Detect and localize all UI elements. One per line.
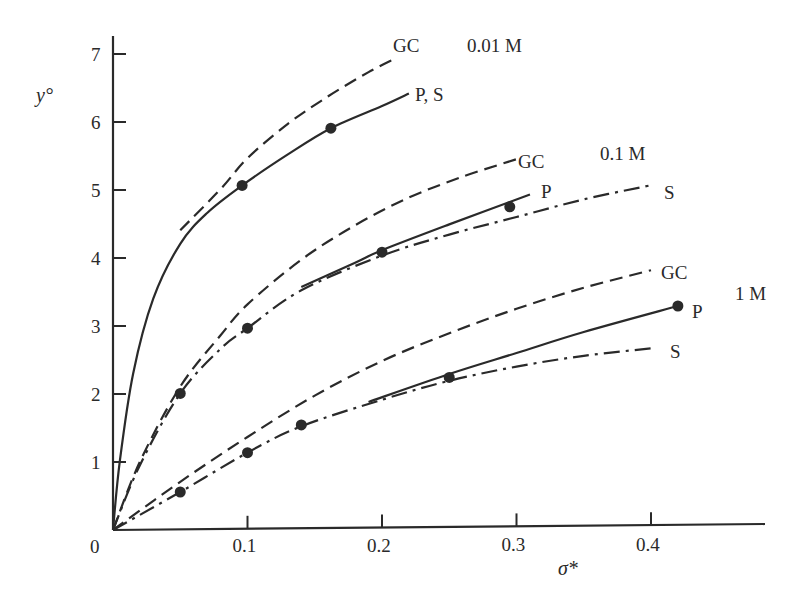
curve-gc-1m	[113, 270, 651, 530]
data-point-0.1m	[175, 388, 186, 399]
x-tick-label: 0.1	[233, 535, 257, 556]
y-tick-label: 3	[91, 316, 101, 337]
data-point-1m	[242, 447, 253, 458]
x-tick-label: 0.4	[636, 534, 660, 555]
y-tick-label: 5	[91, 180, 101, 201]
curve-s-1m	[113, 348, 651, 530]
data-point-1m	[175, 487, 186, 498]
label-s-1m: S	[670, 341, 681, 362]
x-axis	[113, 524, 765, 530]
data-point-1m	[672, 301, 683, 312]
data-point-0.01m	[237, 180, 248, 191]
y-tick-label: 2	[91, 384, 101, 405]
data-point-0.1m	[242, 323, 253, 334]
data-point-0.1m	[377, 247, 388, 258]
curves	[113, 58, 678, 530]
data-point-0.1m	[504, 201, 515, 212]
y-tick-label: 1	[91, 452, 101, 473]
x-tick-label: 0.2	[367, 535, 391, 556]
curve-p-1m	[369, 306, 678, 402]
y-tick-label: 6	[91, 112, 101, 133]
chart-canvas: 1234567 0.10.20.30.4 0 y° σ* GC 0.01 M P…	[0, 0, 806, 608]
data-point-1m	[296, 419, 307, 430]
curve-ps-0.01m	[113, 94, 409, 530]
label-concentration-0.01m: 0.01 M	[467, 35, 522, 56]
label-gc-0.01m: GC	[393, 35, 419, 56]
data-point-1m	[444, 372, 455, 383]
y-tick-label: 4	[91, 248, 101, 269]
label-gc-1m: GC	[661, 262, 687, 283]
curve-gc-0.01m	[180, 58, 395, 230]
x-tick-label: 0.3	[502, 534, 526, 555]
curve-labels: GC 0.01 M P, S GC 0.1 M P S GC 1 M P S	[393, 35, 766, 362]
origin-label: 0	[90, 536, 100, 557]
label-concentration-1m: 1 M	[735, 283, 766, 304]
label-ps-0.01m: P, S	[415, 84, 444, 105]
y-ticks: 1234567	[91, 44, 126, 473]
y-axis-title: y°	[34, 84, 53, 107]
axes	[113, 36, 765, 530]
label-s-0.1m: S	[664, 182, 675, 203]
label-concentration-0.1m: 0.1 M	[600, 143, 646, 164]
label-p-0.1m: P	[541, 181, 552, 202]
y-tick-label: 7	[91, 44, 101, 65]
x-ticks: 0.10.20.30.4	[233, 512, 661, 556]
x-axis-title: σ*	[558, 557, 578, 579]
data-point-0.01m	[325, 123, 336, 134]
curve-gc-0.1m	[113, 159, 517, 530]
label-p-1m: P	[692, 301, 703, 322]
curve-s-0.1m	[113, 185, 651, 530]
label-gc-0.1m: GC	[518, 151, 544, 172]
